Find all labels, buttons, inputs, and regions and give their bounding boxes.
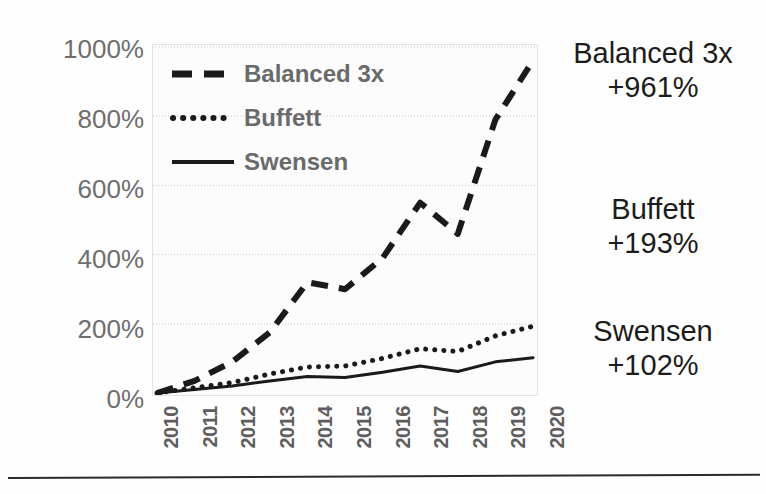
chart-legend: Balanced 3x Buffett Swensen bbox=[170, 52, 410, 184]
y-tick-label: 800% bbox=[78, 106, 145, 132]
chart-figure: 1000% 800% 600% 400% 200% 0% Balanced 3x bbox=[0, 0, 766, 494]
annotation-name: Balanced 3x bbox=[548, 36, 758, 70]
x-tick-label: 2014 bbox=[314, 406, 337, 449]
x-tick-label: 2011 bbox=[199, 406, 222, 447]
legend-label: Swensen bbox=[244, 148, 348, 176]
x-tick-label: 2019 bbox=[507, 406, 530, 449]
x-tick-label: 2017 bbox=[430, 406, 453, 449]
legend-swatch-dotted-icon bbox=[170, 111, 236, 125]
x-axis-labels: 2010201120122013201420152016201720182019… bbox=[152, 402, 538, 472]
series-annotations: Balanced 3x +961% Buffett +193% Swensen … bbox=[548, 34, 758, 414]
annotation-swensen: Swensen +102% bbox=[548, 314, 758, 382]
y-tick-label: 1000% bbox=[63, 36, 144, 62]
legend-label: Buffett bbox=[244, 104, 321, 132]
annotation-value: +193% bbox=[548, 226, 758, 260]
y-tick-label: 400% bbox=[78, 246, 145, 272]
y-tick-label: 200% bbox=[78, 316, 145, 342]
legend-swatch-solid-icon bbox=[170, 155, 236, 169]
x-tick-label: 2015 bbox=[353, 406, 376, 449]
x-tick-label: 2018 bbox=[469, 406, 492, 449]
annotation-name: Swensen bbox=[548, 314, 758, 348]
legend-label: Balanced 3x bbox=[244, 60, 384, 88]
x-tick-label: 2013 bbox=[276, 406, 299, 449]
y-tick-label: 0% bbox=[106, 386, 144, 412]
legend-item-balanced-3x: Balanced 3x bbox=[170, 52, 410, 96]
legend-swatch-dashed-icon bbox=[170, 67, 236, 81]
annotation-buffett: Buffett +193% bbox=[548, 192, 758, 260]
x-tick-label: 2010 bbox=[160, 406, 183, 449]
annotation-value: +961% bbox=[548, 70, 758, 104]
x-tick-label: 2016 bbox=[392, 406, 415, 449]
y-axis-labels: 1000% 800% 600% 400% 200% 0% bbox=[18, 0, 144, 494]
annotation-name: Buffett bbox=[548, 192, 758, 226]
x-tick-label: 2012 bbox=[237, 406, 260, 449]
legend-item-buffett: Buffett bbox=[170, 96, 410, 140]
annotation-balanced-3x: Balanced 3x +961% bbox=[548, 36, 758, 104]
legend-item-swensen: Swensen bbox=[170, 140, 410, 184]
annotation-value: +102% bbox=[548, 348, 758, 382]
y-tick-label: 600% bbox=[78, 176, 145, 202]
